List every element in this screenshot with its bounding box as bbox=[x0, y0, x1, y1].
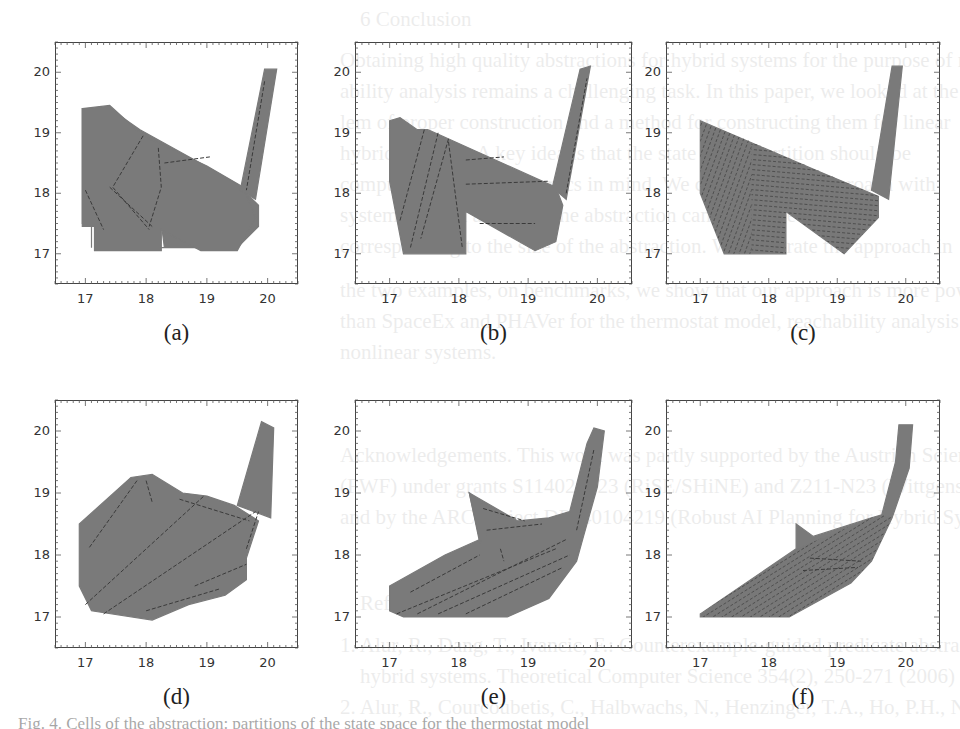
x-tick-label: 18 bbox=[760, 655, 777, 670]
y-tick-label: 18 bbox=[644, 547, 661, 562]
y-tick-label: 20 bbox=[644, 64, 661, 79]
x-tick-label: 17 bbox=[692, 291, 709, 306]
figure-caption: Fig. 4. Cells of the abstraction: partit… bbox=[18, 714, 589, 729]
plot-d: 1717181819192020 bbox=[55, 400, 298, 674]
y-tick-label: 18 bbox=[333, 547, 350, 562]
panel-e: 1717181819192020 bbox=[355, 400, 632, 674]
plot-b: 1717181819192020 bbox=[355, 42, 632, 310]
x-tick-label: 18 bbox=[760, 291, 777, 306]
panel-label-a: (a) bbox=[147, 320, 207, 346]
x-tick-label: 19 bbox=[520, 291, 537, 306]
region-polygon bbox=[82, 106, 255, 251]
y-tick-label: 17 bbox=[333, 609, 350, 624]
region-polygon bbox=[700, 121, 878, 254]
x-tick-label: 20 bbox=[589, 291, 606, 306]
x-tick-label: 19 bbox=[199, 291, 216, 306]
bleed-through-line: 6 Conclusion bbox=[360, 4, 471, 35]
y-tick-label: 18 bbox=[333, 185, 350, 200]
bleed-through-line: than SpaceEx and PHAVer for the thermost… bbox=[340, 306, 960, 337]
region-polygon bbox=[700, 425, 912, 617]
y-tick-label: 19 bbox=[333, 485, 350, 500]
x-tick-label: 17 bbox=[381, 291, 398, 306]
x-tick-label: 18 bbox=[451, 291, 468, 306]
y-tick-label: 19 bbox=[644, 485, 661, 500]
region-polygon bbox=[390, 118, 563, 254]
x-tick-label: 19 bbox=[199, 655, 216, 670]
panel-label-c: (c) bbox=[773, 320, 833, 346]
panel-f: 1717181819192020 bbox=[666, 400, 940, 674]
x-tick-label: 18 bbox=[138, 655, 155, 670]
plot-a: 1717181819192020 bbox=[55, 42, 298, 310]
panel-label-d: (d) bbox=[147, 684, 207, 710]
region-polygon bbox=[240, 69, 276, 199]
region-polygon bbox=[872, 66, 903, 199]
x-tick-label: 17 bbox=[381, 655, 398, 670]
y-tick-label: 18 bbox=[644, 185, 661, 200]
panel-label-f: (f) bbox=[773, 684, 833, 710]
y-tick-label: 19 bbox=[644, 125, 661, 140]
region-polygon bbox=[237, 422, 273, 518]
y-tick-label: 20 bbox=[644, 423, 661, 438]
panel-d: 1717181819192020 bbox=[55, 400, 298, 674]
x-tick-label: 20 bbox=[897, 655, 914, 670]
x-tick-label: 18 bbox=[451, 655, 468, 670]
panel-label-b: (b) bbox=[464, 320, 524, 346]
y-tick-label: 17 bbox=[33, 246, 50, 261]
x-tick-label: 20 bbox=[589, 655, 606, 670]
y-tick-label: 17 bbox=[644, 246, 661, 261]
y-tick-label: 20 bbox=[33, 423, 50, 438]
y-tick-label: 20 bbox=[333, 64, 350, 79]
y-tick-label: 18 bbox=[33, 547, 50, 562]
y-tick-label: 17 bbox=[33, 609, 50, 624]
panel-b: 1717181819192020 bbox=[355, 42, 632, 310]
x-tick-label: 19 bbox=[829, 655, 846, 670]
panel-c: 1717181819192020 bbox=[666, 42, 940, 310]
region-polygon bbox=[552, 66, 590, 199]
x-tick-label: 20 bbox=[897, 291, 914, 306]
y-tick-label: 19 bbox=[333, 125, 350, 140]
y-tick-label: 17 bbox=[333, 246, 350, 261]
x-tick-label: 17 bbox=[77, 291, 94, 306]
panel-a: 1717181819192020 bbox=[55, 42, 298, 310]
panel-label-e: (e) bbox=[464, 684, 524, 710]
y-tick-label: 19 bbox=[33, 125, 50, 140]
x-tick-label: 17 bbox=[77, 655, 94, 670]
x-tick-label: 19 bbox=[829, 291, 846, 306]
plot-c: 1717181819192020 bbox=[666, 42, 940, 310]
x-tick-label: 17 bbox=[692, 655, 709, 670]
x-tick-label: 18 bbox=[138, 291, 155, 306]
x-tick-label: 20 bbox=[259, 291, 276, 306]
y-tick-label: 20 bbox=[333, 423, 350, 438]
plot-e: 1717181819192020 bbox=[355, 400, 632, 674]
region-polygon bbox=[79, 474, 258, 620]
y-tick-label: 17 bbox=[644, 609, 661, 624]
y-tick-label: 20 bbox=[33, 64, 50, 79]
x-tick-label: 20 bbox=[259, 655, 276, 670]
y-tick-label: 19 bbox=[33, 485, 50, 500]
plot-f: 1717181819192020 bbox=[666, 400, 940, 674]
y-tick-label: 18 bbox=[33, 185, 50, 200]
x-tick-label: 19 bbox=[520, 655, 537, 670]
